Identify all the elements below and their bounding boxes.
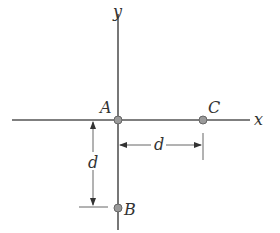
- x-axis-label: x: [254, 110, 263, 129]
- point-b-label: B: [123, 200, 136, 219]
- arrow-down-icon: [90, 198, 96, 206]
- point-c: [199, 116, 207, 124]
- point-a-label: A: [98, 98, 112, 117]
- diagram-canvas: y x A C B d d: [0, 0, 280, 233]
- arrow-up-icon: [90, 121, 96, 129]
- arrow-right-icon: [194, 142, 202, 148]
- point-a: [114, 116, 122, 124]
- dim-label-vertical: d: [88, 153, 98, 172]
- arrow-left-icon: [119, 142, 127, 148]
- y-axis-label: y: [112, 2, 123, 21]
- point-c-label: C: [208, 98, 220, 117]
- point-b: [114, 204, 122, 212]
- dim-label-horizontal: d: [154, 135, 164, 154]
